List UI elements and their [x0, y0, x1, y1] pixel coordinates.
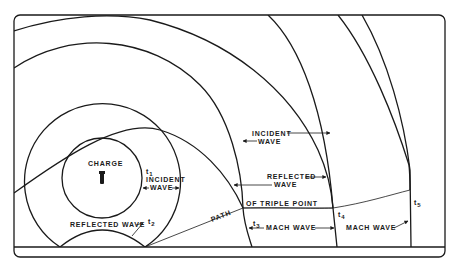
charge-label: CHARGE: [88, 160, 123, 167]
reflected-wave-t5: [338, 15, 410, 190]
reflected-wave-ground-label: REFLECTED WAVE: [70, 221, 145, 228]
blast-wave-diagram: CHARGE t1 INCIDENT WAVE REFLECTED WAVE t…: [0, 0, 453, 269]
svg-text:WAVE: WAVE: [258, 138, 281, 145]
triple-point-path: [145, 190, 410, 247]
triple-point-label: OF TRIPLE POINT: [246, 200, 318, 207]
svg-text:t2: t2: [148, 218, 155, 227]
svg-text:WAVE: WAVE: [150, 184, 173, 191]
incident-wave-t5: [362, 15, 411, 247]
reflected-wave-label: REFLECTED: [267, 173, 316, 180]
incident-wave-inner-label: INCIDENT: [146, 176, 185, 183]
mach-wave-label-2: MACH WAVE: [346, 224, 396, 231]
svg-text:t4: t4: [338, 211, 345, 220]
reflected-wave-t3: [14, 128, 243, 208]
mach-wave-label-1: MACH WAVE: [266, 224, 316, 231]
incident-wave-outer-label: INCIDENT: [252, 130, 291, 137]
svg-text:t5: t5: [414, 199, 421, 208]
svg-text:WAVE: WAVE: [274, 181, 297, 188]
reflected-wave-t2: [60, 230, 145, 247]
path-label: PATH: [210, 209, 232, 223]
